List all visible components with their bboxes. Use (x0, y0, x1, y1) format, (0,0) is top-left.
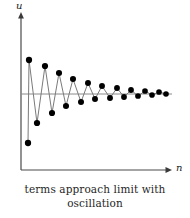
data-point (26, 57, 32, 63)
caption-line-2: oscillation (0, 196, 190, 210)
figure-container: u n terms approach limit with oscillatio… (0, 0, 190, 218)
data-point (107, 95, 113, 101)
data-point (156, 89, 162, 95)
data-point (114, 85, 120, 91)
data-point (92, 96, 98, 102)
data-point (63, 103, 69, 109)
data-point (25, 140, 31, 146)
data-point (70, 76, 76, 82)
sequence-data-points (25, 57, 169, 146)
caption-line-1: terms approach limit with (0, 182, 190, 196)
data-point (135, 93, 141, 99)
data-point (49, 110, 55, 116)
data-point (121, 94, 127, 100)
x-axis-arrow-icon (166, 167, 173, 173)
data-point (128, 87, 134, 93)
data-point (78, 99, 84, 105)
data-point (85, 80, 91, 86)
x-axis-label: n (176, 163, 182, 173)
data-point (163, 91, 169, 97)
y-axis-label: u (16, 1, 22, 11)
oscillating-sequence-plot (0, 0, 190, 178)
data-point (99, 83, 105, 89)
data-point (149, 92, 155, 98)
sequence-polyline (28, 60, 166, 143)
data-point (34, 120, 40, 126)
data-point (142, 88, 148, 94)
y-axis-arrow-icon (18, 12, 24, 19)
data-point (42, 63, 48, 69)
figure-caption: terms approach limit with oscillation (0, 182, 190, 210)
data-point (56, 70, 62, 76)
